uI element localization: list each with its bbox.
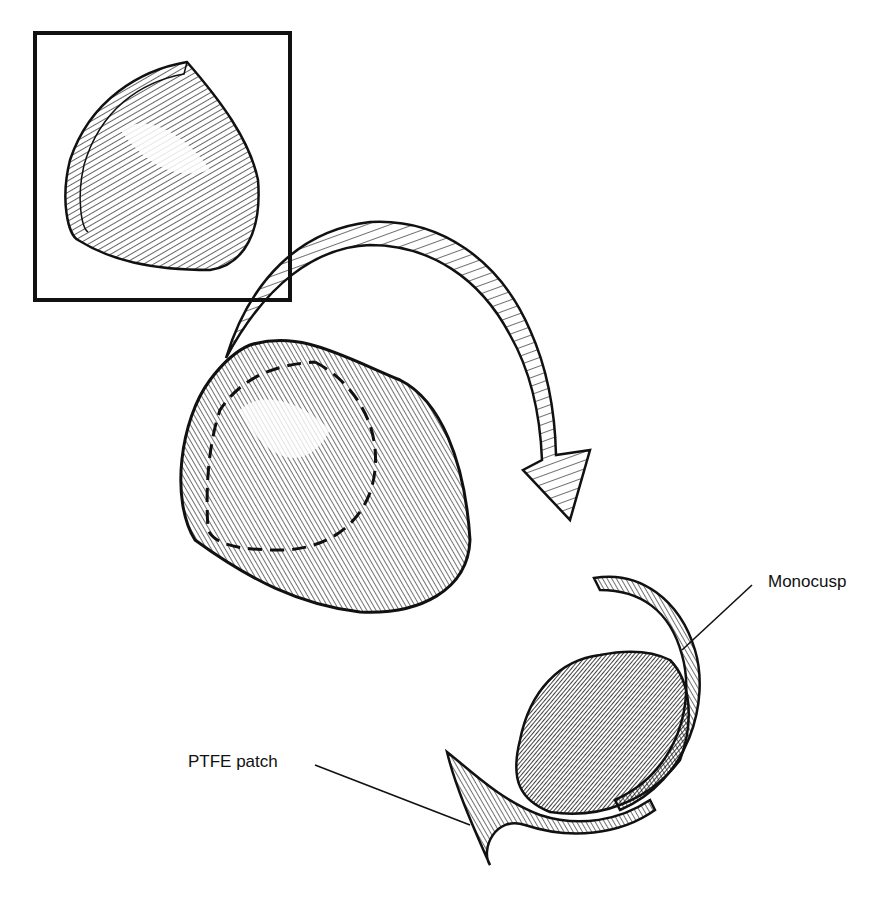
label-ptfe-patch: PTFE patch (188, 752, 278, 772)
shaped-patch (181, 340, 470, 612)
inset-patch-panel (35, 33, 290, 300)
leader-line-ptfe (315, 765, 470, 825)
illustration (0, 0, 881, 900)
monocusp-leaflet (516, 652, 688, 814)
leader-line-monocusp (682, 585, 752, 650)
monocusp-result (447, 577, 700, 865)
label-monocusp: Monocusp (768, 572, 846, 592)
